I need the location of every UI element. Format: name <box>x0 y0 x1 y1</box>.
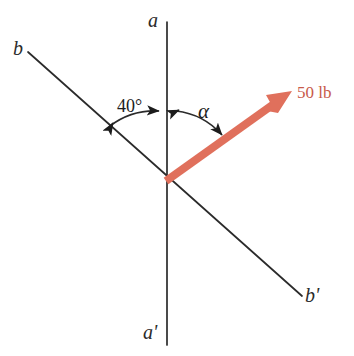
force-vector-diagram: a a' b b' 40° α 50 lb <box>0 0 354 356</box>
axis-bb-prime <box>28 52 302 296</box>
force-vector-shaft <box>166 101 278 181</box>
axis-label-b-prime: b' <box>305 285 319 305</box>
axis-label-a-prime: a' <box>143 322 157 342</box>
force-vector-arrowhead <box>262 91 292 113</box>
angle-label-40-degrees: 40° <box>117 97 142 115</box>
angle-label-alpha: α <box>198 101 209 122</box>
force-magnitude-label: 50 lb <box>297 84 331 101</box>
diagram-canvas <box>0 0 354 356</box>
axis-label-a: a <box>148 10 158 30</box>
axis-label-b: b <box>13 38 23 58</box>
